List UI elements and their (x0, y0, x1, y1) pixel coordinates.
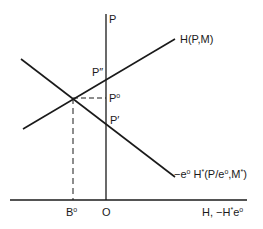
point-label-p-zero: Po (109, 92, 120, 104)
horizontal-axis-label: H, −H*eo (202, 206, 243, 218)
vertical-axis-label: P (109, 13, 116, 25)
point-label-p-prime: P′ (110, 114, 119, 126)
tick-label-b-zero: Bo (66, 206, 77, 218)
tick-label-origin: O (102, 206, 111, 218)
curve-h-label: H(P,M) (180, 33, 213, 45)
curve-foreign-label: −eo H*(P/eo,M*) (174, 168, 247, 180)
point-label-p-double-prime: P″ (92, 66, 103, 78)
curve-h-upward (23, 39, 175, 129)
diagram: P H(P,M) −eo H*(P/eo,M*) P″ Po P′ Bo O H… (0, 0, 263, 229)
